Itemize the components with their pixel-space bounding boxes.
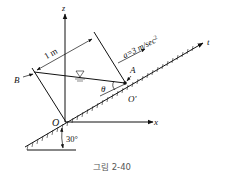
- acceleration-label-group: a=3 m/sec2: [121, 34, 160, 60]
- free-surface-triangle-icon: [75, 71, 85, 81]
- diagram-figure: t 30° z x O 1 m B A θ O' a=3 m/sec2 그림 2…: [0, 0, 225, 185]
- point-b-arrow: [23, 74, 33, 77]
- z-axis-label: z: [61, 4, 66, 13]
- free-surface-line: [34, 72, 125, 83]
- origin-label: O: [52, 117, 59, 128]
- acceleration-label: a=3 m/sec2: [121, 34, 160, 60]
- origin-prime-label: O': [128, 94, 137, 104]
- point-a-arrow: [127, 76, 131, 81]
- t-axis-label: t: [207, 37, 210, 47]
- incline-surface: [25, 43, 203, 150]
- incline-angle-label: 30°: [66, 134, 78, 144]
- x-axis-label: x: [153, 117, 158, 127]
- incline-angle-arc: [62, 128, 63, 148]
- theta-label: θ: [101, 84, 106, 94]
- point-b-label: B: [14, 75, 20, 85]
- point-a-label: A: [129, 65, 136, 75]
- figure-caption: 그림 2-40: [93, 162, 131, 172]
